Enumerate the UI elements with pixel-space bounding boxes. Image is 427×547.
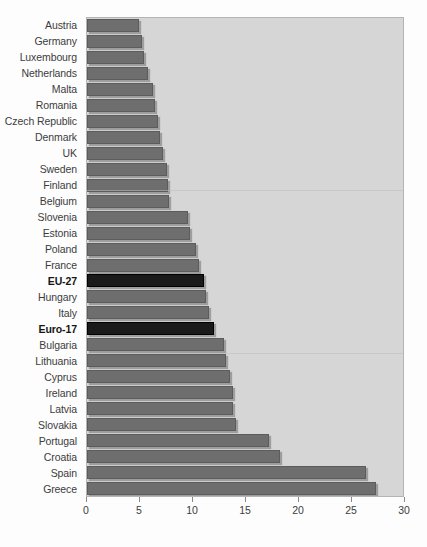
bar-row xyxy=(87,289,403,305)
bar xyxy=(87,306,209,319)
bar xyxy=(87,83,153,96)
bar-row xyxy=(87,369,403,385)
category-label: Germany xyxy=(0,33,82,49)
bar xyxy=(87,450,280,463)
bar xyxy=(87,147,163,160)
bar xyxy=(87,418,236,431)
bar-row xyxy=(87,209,403,225)
bar-row xyxy=(87,98,403,114)
bar-row xyxy=(87,480,403,496)
x-tick-mark xyxy=(192,497,193,502)
bar xyxy=(87,243,196,256)
category-label: Belgium xyxy=(0,193,82,209)
bar-row xyxy=(87,305,403,321)
bar xyxy=(87,99,155,112)
category-label: Italy xyxy=(0,305,82,321)
bar xyxy=(87,354,226,367)
bar xyxy=(87,466,366,479)
category-label: Bulgaria xyxy=(0,337,82,353)
x-tick-label: 0 xyxy=(83,504,89,516)
bars-layer xyxy=(87,18,403,496)
category-label: Greece xyxy=(0,481,82,497)
category-label: Euro-17 xyxy=(0,321,82,337)
bar xyxy=(87,227,190,240)
bar xyxy=(87,211,188,224)
bar-row xyxy=(87,18,403,34)
guide-line xyxy=(87,190,403,191)
bar-row xyxy=(87,448,403,464)
x-tick-label: 25 xyxy=(345,504,357,516)
bar xyxy=(87,163,167,176)
category-label: Poland xyxy=(0,241,82,257)
bar-row xyxy=(87,82,403,98)
category-label: Austria xyxy=(0,17,82,33)
bar-chart: AustriaGermanyLuxembourgNetherlandsMalta… xyxy=(0,0,427,547)
bar xyxy=(87,115,158,128)
bar-row xyxy=(87,66,403,82)
category-label: Malta xyxy=(0,81,82,97)
x-tick-mark xyxy=(298,497,299,502)
bar xyxy=(87,67,148,80)
bar-row xyxy=(87,385,403,401)
bar xyxy=(87,35,142,48)
bar-row xyxy=(87,241,403,257)
category-label: Cyprus xyxy=(0,369,82,385)
plot-area xyxy=(86,17,404,497)
bar xyxy=(87,274,204,287)
bar-row xyxy=(87,416,403,432)
category-label: Czech Republic xyxy=(0,113,82,129)
bar xyxy=(87,322,214,335)
bar-row xyxy=(87,130,403,146)
bar-row xyxy=(87,273,403,289)
bar-row xyxy=(87,257,403,273)
bar-row xyxy=(87,353,403,369)
x-tick-label: 15 xyxy=(239,504,251,516)
category-label: Slovakia xyxy=(0,417,82,433)
category-label: France xyxy=(0,257,82,273)
x-tick-mark xyxy=(245,497,246,502)
category-label: Luxembourg xyxy=(0,49,82,65)
category-label: Portugal xyxy=(0,433,82,449)
bar-row xyxy=(87,161,403,177)
bar-row xyxy=(87,114,403,130)
category-label: Ireland xyxy=(0,385,82,401)
x-tick-label: 30 xyxy=(398,504,410,516)
bar-row xyxy=(87,321,403,337)
category-label: Hungary xyxy=(0,289,82,305)
category-label: EU-27 xyxy=(0,273,82,289)
bar xyxy=(87,51,144,64)
bar xyxy=(87,434,269,447)
bar xyxy=(87,131,160,144)
category-label: Netherlands xyxy=(0,65,82,81)
bar xyxy=(87,482,376,495)
category-axis-labels: AustriaGermanyLuxembourgNetherlandsMalta… xyxy=(0,17,82,497)
bar-row xyxy=(87,146,403,162)
category-label: Finland xyxy=(0,177,82,193)
x-tick-mark xyxy=(404,497,405,502)
bar xyxy=(87,386,233,399)
bar-row xyxy=(87,337,403,353)
category-label: Sweden xyxy=(0,161,82,177)
bar xyxy=(87,259,199,272)
x-axis: 051015202530 xyxy=(86,497,404,537)
bar-row xyxy=(87,225,403,241)
guide-line xyxy=(87,353,403,354)
bar xyxy=(87,370,230,383)
bar-row xyxy=(87,432,403,448)
bar xyxy=(87,19,139,32)
x-tick-label: 5 xyxy=(136,504,142,516)
category-label: Lithuania xyxy=(0,353,82,369)
bar xyxy=(87,195,169,208)
bar xyxy=(87,402,233,415)
category-label: Denmark xyxy=(0,129,82,145)
category-label: UK xyxy=(0,145,82,161)
bar-row xyxy=(87,34,403,50)
bar-row xyxy=(87,193,403,209)
bar-row xyxy=(87,50,403,66)
x-tick-mark xyxy=(139,497,140,502)
x-tick-mark xyxy=(86,497,87,502)
bar xyxy=(87,290,206,303)
bar xyxy=(87,338,224,351)
x-tick-label: 10 xyxy=(186,504,198,516)
category-label: Croatia xyxy=(0,449,82,465)
